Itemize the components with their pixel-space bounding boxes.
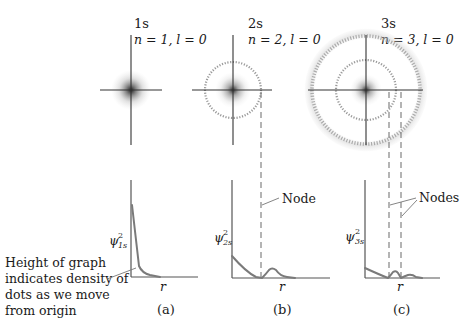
graph-1s: ψ 2 1s r (a) [109,180,198,317]
nodes-leader-line-1 [390,198,416,205]
orbital-label-3s: 3s [381,16,396,31]
x-axis-label-2s: r [279,279,286,294]
x-axis-label-3s: r [397,279,404,294]
annotation-line-1: Height of graph [5,255,106,270]
density-curve-3s [365,268,422,278]
panel-2s: 2s n = 2, l = 0 ψ 2 2s r (b) Node [192,16,330,317]
panel-3s: 3s n = 3, l = 0 ψ 2 3s r (c) Nodes [304,16,459,317]
orbital-diagram: 1s n = 1, l = 0 ψ 2 1s r (a) Height of g… [0,0,466,331]
node-callout: Node [262,191,316,206]
annotation-line-4: from origin [5,303,77,318]
orbital-label-1s: 1s [134,16,149,31]
y-axis-label-3s: ψ [345,229,355,244]
y-label-subscript: 2s [222,238,232,247]
orbital-label-2s: 2s [248,16,263,31]
quantum-numbers-2s: n = 2, l = 0 [248,32,321,47]
nodes-callout: Nodes [390,190,459,216]
panel-label-a: (a) [157,302,175,317]
panel-label-c: (c) [393,302,410,317]
annotation-line-2: indicates density of [5,271,130,286]
y-label-subscript: 1s [118,241,127,250]
x-axis-label-1s: r [160,279,167,294]
axes-cross-1s [100,35,162,145]
y-label-superscript: 2 [118,231,123,240]
nodes-label: Nodes [419,190,459,205]
y-label-subscript: 3s [355,237,364,246]
annotation-height-of-graph: Height of graph indicates density of dot… [5,255,136,318]
density-curve-2s [232,256,295,278]
quantum-numbers-1s: n = 1, l = 0 [134,32,207,47]
panel-1s: 1s n = 1, l = 0 ψ 2 1s r (a) Height of g… [5,16,207,318]
nodes-leader-line-2 [402,200,417,216]
annotation-line-3: dots as we move [5,287,110,302]
y-label-superscript: 2 [223,228,228,237]
density-curve-1s [132,205,160,277]
panel-label-b: (b) [273,302,291,317]
node-leader-line [262,198,279,205]
axes-cross-2s [192,35,272,145]
node-label: Node [282,191,316,206]
y-label-superscript: 2 [355,227,360,236]
